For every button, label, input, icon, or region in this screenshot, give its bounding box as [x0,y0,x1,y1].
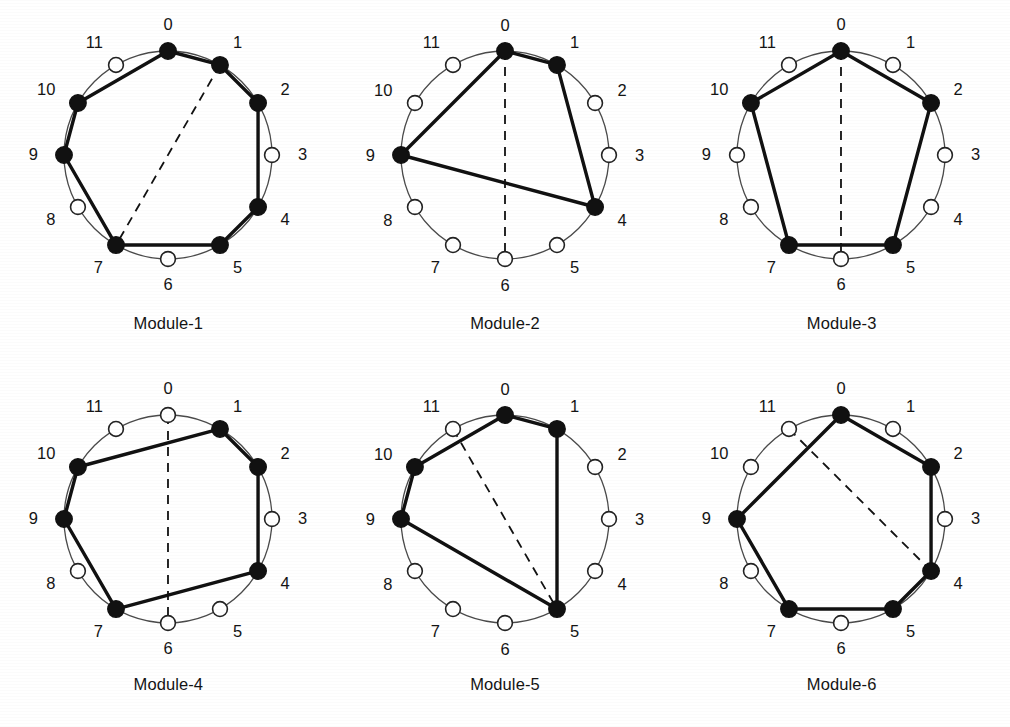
filled-node [496,406,512,422]
node-label: 0 [163,379,172,397]
module-panel: 01234567891011Module-4 [0,364,337,727]
filled-node [56,510,72,526]
node-label: 11 [423,33,440,51]
solid-edge [78,51,168,103]
node-label: 11 [86,396,103,414]
node-label: 5 [233,258,242,276]
node-label: 7 [430,258,439,276]
filled-node [56,147,72,163]
module-panel: 01234567891011Module-5 [337,364,674,727]
node-label: 11 [759,396,776,414]
empty-node [744,200,759,215]
filled-node [548,57,564,73]
node-label: 0 [500,379,509,397]
empty-node [407,96,422,111]
node-label: 1 [570,33,579,51]
solid-edge [401,155,595,207]
solid-edge [116,570,258,608]
module-graph: 01234567891011 [0,0,337,364]
filled-node [108,600,124,616]
empty-node [744,459,759,474]
node-label: 9 [702,509,711,527]
solid-edge-group [64,428,258,608]
solid-edge [841,51,931,103]
filled-node [392,510,408,526]
node-label: 10 [37,444,55,462]
empty-node [445,601,460,616]
node-label: 6 [837,639,846,657]
solid-edge [751,51,841,103]
empty-node [445,58,460,73]
filled-node [70,458,86,474]
node-label: 2 [617,444,626,462]
node-label: 6 [163,639,172,657]
node-label: 9 [702,146,711,164]
empty-node [497,615,512,630]
node-label: 4 [281,210,290,228]
solid-edge [64,155,116,245]
solid-edge-group [401,415,557,609]
module-caption: Module-6 [673,675,1010,694]
filled-node [392,147,408,163]
empty-node [782,58,797,73]
filled-node [250,458,266,474]
node-label: 11 [759,33,776,51]
empty-node [587,563,602,578]
node-label: 1 [906,33,915,51]
node-label: 7 [767,258,776,276]
empty-node [445,421,460,436]
empty-node [834,615,849,630]
filled-node [587,199,603,215]
node-label: 8 [46,210,55,228]
dashed-edge-group [116,65,220,245]
node-label: 10 [710,444,728,462]
empty-node [730,148,745,163]
empty-node [445,238,460,253]
empty-node [938,511,953,526]
module-graph: 01234567891011 [0,364,337,727]
solid-edge-group [64,51,258,245]
filled-node [743,95,759,111]
module-caption: Module-1 [0,314,337,333]
node-label: 8 [383,574,392,592]
filled-node [781,237,797,253]
module-caption: Module-4 [0,675,337,694]
node-label: 0 [163,16,172,34]
node-label: 2 [617,81,626,99]
module-caption: Module-5 [337,675,674,694]
node-label: 2 [281,444,290,462]
node-label: 10 [37,81,55,99]
node-label: 4 [954,574,963,592]
node-label: 5 [570,622,579,640]
dashed-edge-group [453,428,557,608]
node-label: 2 [281,81,290,99]
node-label: 3 [298,509,307,527]
empty-node [549,238,564,253]
node-label: 1 [233,396,242,414]
node-label: 9 [365,146,374,164]
empty-node [601,511,616,526]
empty-node [213,601,228,616]
node-label: 8 [720,210,729,228]
empty-node [587,459,602,474]
empty-node [886,58,901,73]
node-label: 10 [374,81,392,99]
filled-node [70,95,86,111]
solid-edge [893,103,931,245]
filled-node [548,420,564,436]
node-label: 8 [383,211,392,229]
node-label: 3 [635,146,644,164]
node-label: 4 [617,211,626,229]
module-caption: Module-2 [337,314,674,333]
node-label: 3 [971,146,980,164]
node-group [729,406,953,630]
empty-node [938,148,953,163]
filled-node [212,420,228,436]
empty-node [71,563,86,578]
filled-node [923,458,939,474]
empty-node [161,252,176,267]
dashed-edge [453,428,557,608]
node-label: 3 [635,509,644,527]
node-label: 11 [423,396,440,414]
empty-node [161,615,176,630]
